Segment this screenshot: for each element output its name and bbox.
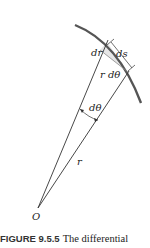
label-ds: ds	[116, 48, 128, 59]
label-r-dtheta: r dθ	[100, 69, 120, 80]
label-dr: dr	[91, 47, 103, 58]
polar-arc-length-diagram: dr ds r dθ dθ r O	[0, 0, 150, 248]
figure-number: FIGURE 9.5.5	[0, 233, 60, 244]
ds-tick-bottom	[128, 65, 135, 71]
figure-caption-text: The differential	[63, 233, 128, 244]
label-dtheta: dθ	[89, 102, 101, 113]
label-origin: O	[32, 211, 40, 222]
ray-left	[38, 40, 108, 208]
figure-caption: FIGURE 9.5.5The differential	[0, 233, 150, 244]
polar-curve	[75, 25, 141, 103]
ray-right	[38, 71, 129, 208]
label-r: r	[77, 156, 83, 167]
